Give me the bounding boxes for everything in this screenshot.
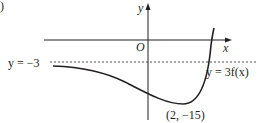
- y-axis-arrow-icon: [146, 3, 151, 10]
- minimum-point-label: (2, −15): [166, 108, 205, 122]
- curve-3fx: [53, 28, 214, 104]
- x-axis-label: x: [222, 41, 229, 55]
- y-axis-label: y: [137, 1, 144, 15]
- curve-label: y = 3f(x): [206, 65, 249, 79]
- asymptote-label: y = −3: [8, 56, 40, 70]
- origin-label: O: [136, 40, 145, 54]
- graph-figure: ) y x O y = −3 y = 3f(x) (2, −15): [0, 0, 263, 123]
- part-label: ): [0, 0, 4, 13]
